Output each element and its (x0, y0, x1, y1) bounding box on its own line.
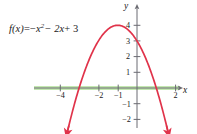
x-tick-label-neg4: −4 (54, 91, 67, 100)
plot-canvas (0, 0, 197, 134)
y-tick-label-3: 3 (124, 37, 132, 46)
y-tick-label-neg1: −1 (120, 100, 133, 109)
function-equation-label: f(x)=−x2− 2x+ 3 (9, 23, 78, 34)
x-tick-label-2: 2 (172, 91, 180, 100)
parabola-curve (67, 25, 167, 133)
y-tick-label-neg2: −2 (120, 115, 133, 124)
y-tick-label-4: 4 (124, 21, 132, 30)
graph-figure: f(x)=−x2− 2x+ 3 y x −4 −2 −1 2 4 3 2 1 −… (0, 0, 197, 134)
y-tick-label-2: 2 (124, 52, 132, 61)
y-tick-label-1: 1 (124, 68, 132, 77)
x-axis-label: x (183, 85, 187, 95)
equation-term3: + 3 (64, 23, 78, 34)
x-tick-label-neg2: −2 (93, 91, 106, 100)
curve-right-arrowhead (167, 126, 169, 133)
y-axis-label: y (124, 1, 128, 11)
curve-left-arrowhead (67, 126, 69, 133)
equation-lhs: f(x) (9, 23, 24, 34)
equation-term2: − 2x (44, 23, 64, 34)
